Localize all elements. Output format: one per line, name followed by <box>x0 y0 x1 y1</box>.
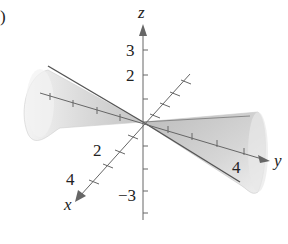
part-label: ) <box>0 7 6 26</box>
x-tick-label-2: 2 <box>93 141 102 160</box>
x-axis-label: x <box>63 195 72 214</box>
y-axis-label: y <box>272 151 282 170</box>
z-tick-label-3: 3 <box>126 41 135 60</box>
y-tick-label-4: 4 <box>232 158 241 177</box>
z-tick-label-2: 2 <box>126 66 135 85</box>
cone-diagram: ) z 3 2 −3 2 4 x 4 y <box>0 0 288 244</box>
z-axis-arrow-icon <box>139 24 147 36</box>
right-cone-nappe <box>143 112 268 193</box>
z-tick-label-neg3: −3 <box>118 186 136 205</box>
z-axis-label: z <box>137 3 145 22</box>
x-tick-label-4: 4 <box>66 170 75 189</box>
